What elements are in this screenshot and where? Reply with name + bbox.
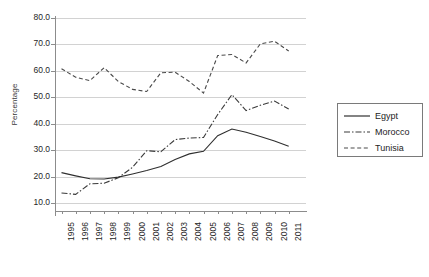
legend-swatch-solid-icon: [344, 111, 370, 121]
x-tick-mark: [161, 211, 162, 214]
x-tick-mark: [118, 211, 119, 214]
x-tick-label: 1998: [108, 211, 118, 241]
x-tick-label: 2004: [193, 211, 203, 241]
y-tick-label: 70.0: [8, 38, 50, 48]
legend-item-morocco: Morocco: [338, 124, 422, 140]
y-tick-label: 80.0: [8, 12, 50, 22]
legend-label-tunisia: Tunisia: [375, 143, 404, 153]
x-tick-mark: [246, 211, 247, 214]
series-line-tunisia: [62, 41, 289, 93]
legend-swatch-dashed-icon: [344, 143, 370, 153]
y-tick-label: 10.0: [8, 197, 50, 207]
x-axis-labels: 1995199619971998199920002001200220032004…: [0, 213, 429, 277]
x-tick-label: 2000: [137, 211, 147, 241]
y-tick-label: 50.0: [8, 91, 50, 101]
y-tick-label: 20.0: [8, 171, 50, 181]
x-tick-mark: [189, 211, 190, 214]
x-tick-mark: [62, 211, 63, 214]
x-tick-label: 2007: [236, 211, 246, 241]
x-tick-mark: [260, 211, 261, 214]
x-tick-mark: [104, 211, 105, 214]
x-tick-label: 2008: [250, 211, 260, 241]
x-tick-mark: [289, 211, 290, 214]
series-lines: [55, 18, 306, 211]
y-tick-label: 60.0: [8, 65, 50, 75]
x-tick-mark: [133, 211, 134, 214]
x-tick-mark: [147, 211, 148, 214]
y-tick-label: 40.0: [8, 118, 50, 128]
x-tick-mark: [90, 211, 91, 214]
legend-label-morocco: Morocco: [375, 127, 410, 137]
x-tick-label: 1996: [80, 211, 90, 241]
x-tick-label: 2010: [279, 211, 289, 241]
x-tick-label: 2011: [293, 211, 303, 241]
x-tick-label: 1995: [66, 211, 76, 241]
x-tick-mark: [204, 211, 205, 214]
legend-swatch-dashdot-icon: [344, 127, 370, 137]
plot-area: [55, 18, 306, 211]
x-tick-mark: [76, 211, 77, 214]
x-tick-mark: [218, 211, 219, 214]
x-tick-label: 2002: [165, 211, 175, 241]
x-tick-label: 2001: [151, 211, 161, 241]
x-tick-label: 1999: [122, 211, 132, 241]
chart-legend: Egypt Morocco Tunisia: [337, 103, 423, 157]
legend-label-egypt: Egypt: [375, 111, 398, 121]
x-tick-label: 2003: [179, 211, 189, 241]
series-line-egypt: [62, 129, 289, 179]
x-tick-mark: [232, 211, 233, 214]
y-tick-label: 30.0: [8, 144, 50, 154]
x-tick-label: 1997: [94, 211, 104, 241]
x-tick-label: 2009: [264, 211, 274, 241]
x-tick-label: 2005: [208, 211, 218, 241]
legend-item-egypt: Egypt: [338, 108, 422, 124]
x-tick-mark: [275, 211, 276, 214]
x-tick-mark: [175, 211, 176, 214]
line-chart: Percentage 10.020.030.040.050.060.070.08…: [0, 0, 429, 277]
legend-item-tunisia: Tunisia: [338, 140, 422, 156]
x-tick-label: 2006: [222, 211, 232, 241]
